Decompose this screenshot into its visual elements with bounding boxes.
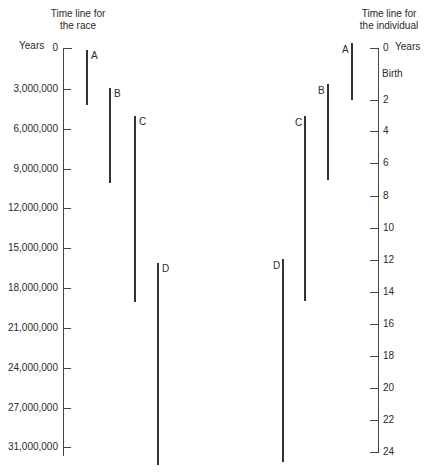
right-tick-mark (370, 420, 378, 421)
birth-label: Birth (382, 69, 403, 79)
left-tick-label: 21,000,000 (8, 323, 58, 333)
right-bar-b (327, 84, 329, 180)
right-bar-d (282, 259, 284, 462)
right-tick-label: 4 (383, 126, 389, 136)
right-tick-label: 6 (383, 158, 389, 168)
right-bar-c (304, 116, 306, 301)
right-tick-mark (370, 100, 378, 101)
left-tick-label: 6,000,000 (14, 124, 59, 134)
left-tick-mark (63, 447, 71, 448)
right-tick-mark (370, 260, 378, 261)
right-tick-mark (370, 292, 378, 293)
right-bar-a (351, 43, 353, 100)
left-bar-label: A (91, 51, 98, 61)
left-bar-label: B (114, 89, 121, 99)
left-title-line2: the race (28, 20, 128, 32)
right-tick-mark (370, 196, 378, 197)
right-axis-line (378, 48, 379, 453)
right-tick-mark (370, 452, 378, 453)
left-tick-label: 9,000,000 (14, 164, 59, 174)
right-tick-mark (370, 163, 378, 164)
right-tick-label: 14 (383, 287, 394, 297)
right-tick-mark (370, 324, 378, 325)
left-tick-label: 18,000,000 (8, 283, 58, 293)
left-tick-label: 15,000,000 (8, 243, 58, 253)
right-tick-mark (370, 356, 378, 357)
right-bar-label: D (273, 261, 280, 271)
left-tick-mark (63, 408, 71, 409)
left-title-line1: Time line for (28, 8, 128, 20)
right-bar-label: C (295, 118, 302, 128)
right-tick-label: 0 (383, 43, 389, 53)
right-tick-mark (370, 131, 378, 132)
left-tick-mark (63, 169, 71, 170)
right-unit-label: Years (395, 42, 420, 52)
left-timeline-title: Time line for the race (28, 8, 128, 32)
right-bar-label: A (342, 45, 349, 55)
left-bar-label: D (162, 264, 169, 274)
right-tick-label: 18 (383, 351, 394, 361)
left-bar-d (157, 263, 159, 465)
left-unit-label: Years (19, 41, 44, 51)
left-bar-label: C (139, 117, 146, 127)
left-tick-label: 3,000,000 (14, 84, 59, 94)
left-tick-label: 31,000,000 (8, 442, 58, 452)
left-tick-label: 24,000,000 (8, 363, 58, 373)
right-tick-label: 16 (383, 319, 394, 329)
left-axis-line (63, 48, 64, 456)
left-tick-label: 27,000,000 (8, 403, 58, 413)
right-tick-label: 24 (383, 447, 394, 457)
left-bar-b (109, 88, 111, 183)
left-tick-label: 12,000,000 (8, 203, 58, 213)
left-bar-a (86, 50, 88, 105)
right-tick-label: 2 (383, 95, 389, 105)
left-tick-mark (63, 248, 71, 249)
right-title-line2: the individual (345, 20, 433, 32)
left-bar-c (134, 116, 136, 302)
left-tick-mark (63, 129, 71, 130)
left-tick-mark (63, 48, 72, 49)
right-title-line1: Time line for (345, 8, 433, 20)
right-tick-mark (370, 388, 378, 389)
left-tick-label: 0 (52, 43, 58, 53)
right-tick-label: 10 (383, 223, 394, 233)
left-tick-mark (63, 89, 71, 90)
left-tick-mark (63, 328, 71, 329)
right-tick-label: 8 (383, 191, 389, 201)
left-tick-mark (63, 208, 71, 209)
right-bar-label: B (318, 86, 325, 96)
right-tick-mark (370, 228, 378, 229)
right-tick-label: 22 (383, 415, 394, 425)
right-tick-mark (370, 48, 378, 49)
left-tick-mark (63, 288, 71, 289)
left-tick-mark (63, 368, 71, 369)
right-tick-label: 12 (383, 255, 394, 265)
right-timeline-title: Time line for the individual (345, 8, 433, 32)
right-tick-label: 20 (383, 383, 394, 393)
